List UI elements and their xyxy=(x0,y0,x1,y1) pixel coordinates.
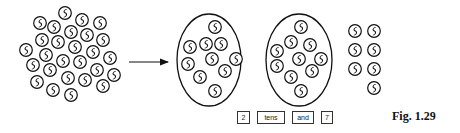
rupee-coin-icon xyxy=(209,21,222,34)
rupee-coin-icon xyxy=(104,52,117,65)
rupee-coin-icon xyxy=(31,76,44,89)
rupee-coin-icon xyxy=(97,80,110,93)
rupee-coin-icon xyxy=(62,72,75,85)
tens-groups xyxy=(177,14,332,106)
rupee-coin-icon xyxy=(368,82,381,95)
rupee-coin-icon xyxy=(271,45,284,58)
group-of-ten-2 xyxy=(266,14,332,106)
rupee-coin-icon xyxy=(27,59,40,72)
rupee-coin-icon xyxy=(44,64,57,77)
rupee-coin-icon xyxy=(79,74,92,87)
rupee-coin-icon xyxy=(59,7,72,20)
rupee-coin-icon xyxy=(52,36,65,49)
answer-box-2: tens xyxy=(257,111,285,124)
rupee-coin-icon xyxy=(271,60,284,73)
rupee-coin-icon xyxy=(65,89,78,102)
rupee-coin-icon xyxy=(184,41,197,54)
answer-box-3: and xyxy=(292,111,314,124)
rupee-coin-icon xyxy=(36,34,49,47)
rupee-coin-icon xyxy=(20,44,33,57)
rupee-coin-icon xyxy=(87,46,100,59)
loose-coin-cluster xyxy=(20,7,121,102)
answer-box-4: 7 xyxy=(321,111,333,124)
rupee-coin-icon xyxy=(285,36,298,49)
rupee-coin-icon xyxy=(304,39,317,52)
rupee-coin-icon xyxy=(215,38,228,51)
rupee-coin-icon xyxy=(74,56,87,69)
rupee-coin-icon xyxy=(349,63,362,76)
rupee-coin-icon xyxy=(91,64,104,77)
rupee-coin-icon xyxy=(295,85,308,98)
rupee-coin-icon xyxy=(194,71,207,84)
answer-box-1: 2 xyxy=(237,111,250,124)
rupee-coin-icon xyxy=(230,53,243,66)
rupee-coin-icon xyxy=(81,29,94,42)
rupee-coin-icon xyxy=(34,17,47,30)
rupee-coin-icon xyxy=(108,69,121,82)
rupee-coin-icon xyxy=(57,55,70,68)
rupee-coin-icon xyxy=(209,85,222,98)
rupee-coin-icon xyxy=(65,26,78,39)
rupee-coin-icon xyxy=(76,14,89,27)
group-of-ten-1 xyxy=(177,14,242,106)
rupee-coin-icon xyxy=(182,58,195,71)
rupee-coin-icon xyxy=(293,53,306,66)
rupee-coin-icon xyxy=(285,71,298,84)
rupee-coin-icon xyxy=(40,49,53,62)
rupee-coin-icon xyxy=(94,17,107,30)
rupee-coin-icon xyxy=(295,21,308,34)
ones-coins xyxy=(349,25,381,95)
rupee-coin-icon xyxy=(219,65,232,78)
rupee-coin-icon xyxy=(349,25,362,38)
rupee-coin-icon xyxy=(315,53,328,66)
figure-canvas xyxy=(0,0,460,133)
rupee-coin-icon xyxy=(306,65,319,78)
rupee-coin-icon xyxy=(200,38,213,51)
rupee-coin-icon xyxy=(349,44,362,57)
rupee-coin-icon xyxy=(368,25,381,38)
rupee-coin-icon xyxy=(368,63,381,76)
rupee-coin-icon xyxy=(48,21,61,34)
rupee-coin-icon xyxy=(368,44,381,57)
figure-caption: Fig. 1.29 xyxy=(392,109,436,124)
rupee-coin-icon xyxy=(97,34,110,47)
rupee-coin-icon xyxy=(206,53,219,66)
rupee-coin-icon xyxy=(69,41,82,54)
rupee-coin-icon xyxy=(47,84,60,97)
